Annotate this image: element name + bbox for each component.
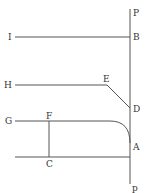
label-d: D	[133, 104, 140, 114]
geometry-diagram: P B I H E D G F A C p	[0, 0, 145, 193]
label-b: B	[133, 32, 140, 42]
label-c: C	[46, 159, 53, 169]
label-e: E	[103, 74, 110, 84]
label-p-bottom: p	[132, 183, 138, 193]
diagram-svg: P B I H E D G F A C p	[0, 0, 145, 193]
label-f: F	[46, 111, 52, 121]
label-h: H	[4, 80, 12, 90]
label-a: A	[132, 142, 140, 152]
label-p-top: P	[133, 8, 139, 18]
label-g: G	[5, 116, 12, 126]
curve-gfa	[15, 121, 130, 143]
label-i: I	[8, 32, 12, 42]
line-hed	[15, 85, 130, 108]
